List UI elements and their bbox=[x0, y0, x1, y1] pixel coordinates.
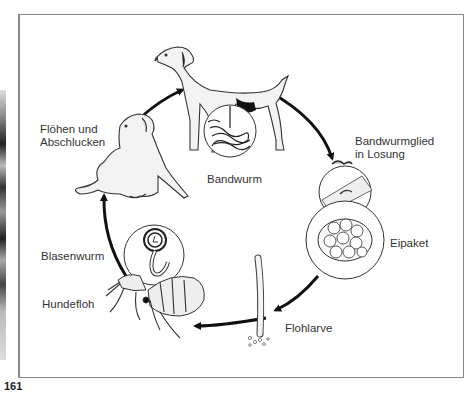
flea-larva-illustration bbox=[248, 258, 269, 346]
arrow-larva-to-flea bbox=[196, 318, 266, 326]
label-abschlucken: Abschlucken bbox=[40, 136, 105, 149]
arrow-dog-to-dog bbox=[140, 90, 182, 118]
life-cycle-illustration bbox=[0, 0, 476, 393]
label-bandwurmglied: Bandwurmglied bbox=[355, 135, 434, 148]
label-in-losung: in Losung bbox=[355, 148, 405, 161]
label-blasenwurm: Blasenwurm bbox=[41, 250, 104, 263]
figure-number: 161 bbox=[4, 380, 22, 392]
label-bandwurm: Bandwurm bbox=[207, 173, 262, 186]
arrow-flea-to-dog bbox=[104, 196, 126, 276]
label-eipaket: Eipaket bbox=[390, 237, 428, 250]
label-flohlarve: Flohlarve bbox=[285, 322, 332, 335]
arrow-eggs-to-larva bbox=[276, 276, 318, 310]
tapeworm-inset bbox=[204, 105, 256, 157]
label-floehen: Flöhen und bbox=[40, 123, 98, 136]
label-hundefloh: Hundefloh bbox=[42, 298, 94, 311]
egg-packet-inset bbox=[306, 201, 384, 279]
